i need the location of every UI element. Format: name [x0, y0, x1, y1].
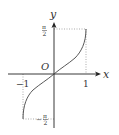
- y-tick-neg-sign: −: [36, 116, 42, 124]
- y-tick-neg-pi-half-den: 2: [44, 119, 48, 126]
- arcsin-graph: y x O −1 1 π 2 − π 2: [0, 0, 119, 135]
- y-tick-pi-half-num: π: [42, 23, 46, 30]
- y-tick-neg-pi-half-num: π: [43, 112, 47, 119]
- x-tick-neg-one: −1: [16, 79, 29, 89]
- x-axis-label: x: [103, 68, 110, 81]
- origin-label: O: [41, 61, 49, 72]
- y-tick-pi-half-den: 2: [43, 30, 47, 37]
- y-axis-label: y: [49, 8, 57, 21]
- x-tick-one: 1: [83, 79, 89, 89]
